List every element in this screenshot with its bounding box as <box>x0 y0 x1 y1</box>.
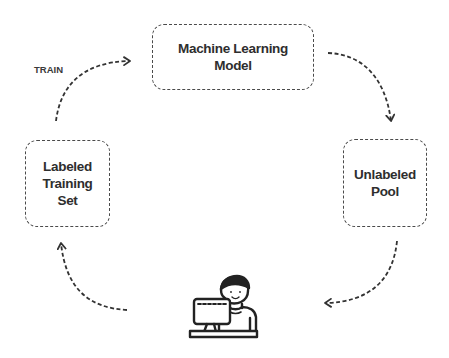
edge-pool-to-annotator-arrow <box>325 241 397 303</box>
node-label-line: Set <box>42 192 92 209</box>
edge-train-arrow <box>56 61 130 121</box>
edge-model-to-pool-arrow <box>328 53 391 121</box>
node-label-line: Model <box>178 57 288 74</box>
edge-label-train: TRAIN <box>34 64 63 75</box>
node-label-line: Pool <box>354 183 416 200</box>
edge-annotator-to-set-arrow <box>61 243 127 310</box>
node-machine-learning-model: Machine Learning Model <box>152 24 314 90</box>
person-at-computer-icon <box>190 276 257 337</box>
node-label-line: Labeled <box>42 158 92 175</box>
node-label-line: Unlabeled <box>354 166 416 183</box>
node-label-line: Training <box>42 175 92 192</box>
node-labeled-training-set: Labeled Training Set <box>25 140 110 227</box>
node-label-line: Machine Learning <box>178 40 288 57</box>
node-unlabeled-pool: Unlabeled Pool <box>343 139 427 227</box>
